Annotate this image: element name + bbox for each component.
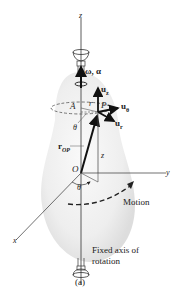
fixed-axis-label-line1: Fixed axis of xyxy=(92,246,139,255)
z-height-label: z xyxy=(101,152,104,160)
origin-label: O xyxy=(72,165,79,174)
u-theta-label: uθ xyxy=(121,102,129,113)
theta-lower-label: θ xyxy=(77,184,81,192)
omega-alpha-label: ω, α xyxy=(85,67,101,76)
point-a-label: A xyxy=(70,102,76,111)
figure-caption: (a) xyxy=(75,278,85,287)
theta-upper-label: θ xyxy=(73,124,77,132)
motion-label: Motion xyxy=(123,198,150,207)
fixed-axis-label-line2: rotation xyxy=(92,257,120,266)
r-op-label: rOP xyxy=(58,142,70,153)
u-z-label: uz xyxy=(101,85,109,96)
u-r-label: ur xyxy=(115,119,123,130)
r-label: r xyxy=(89,100,92,108)
point-p-label: P xyxy=(101,101,107,110)
y-axis-label: y xyxy=(166,169,170,177)
x-axis-label: x xyxy=(13,237,17,245)
z-axis-label: z xyxy=(79,12,82,20)
